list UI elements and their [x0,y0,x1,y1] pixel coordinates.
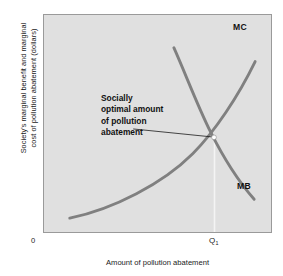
q1-tick-label: Q1 [209,236,218,245]
annotation-line-4: abatement [101,127,175,138]
x-axis-label: Amount of pollution abatement [43,258,272,267]
q1-tick-subscript: 1 [216,240,219,246]
origin-label: 0 [31,236,35,245]
annotation-line-3: of pollution [101,116,175,127]
y-axis-label-line1: Society's marginal benefit and marginal [19,0,29,193]
q1-tick-letter: Q [209,236,215,245]
socially-optimal-annotation: Socially optimal amount of pollution aba… [101,93,175,139]
y-axis-label: Society's marginal benefit and marginal … [19,0,39,193]
mb-curve-label: MB [237,181,251,191]
mc-curve-label: MC [233,22,247,32]
economics-figure: Society's marginal benefit and marginal … [0,0,283,276]
y-axis-label-line2: cost of pollution abatement (dollars) [29,0,39,193]
annotation-line-2: optimal amount [101,104,175,115]
equilibrium-point-marker [212,135,217,140]
annotation-line-1: Socially [101,93,175,104]
mb-curve [70,62,255,219]
